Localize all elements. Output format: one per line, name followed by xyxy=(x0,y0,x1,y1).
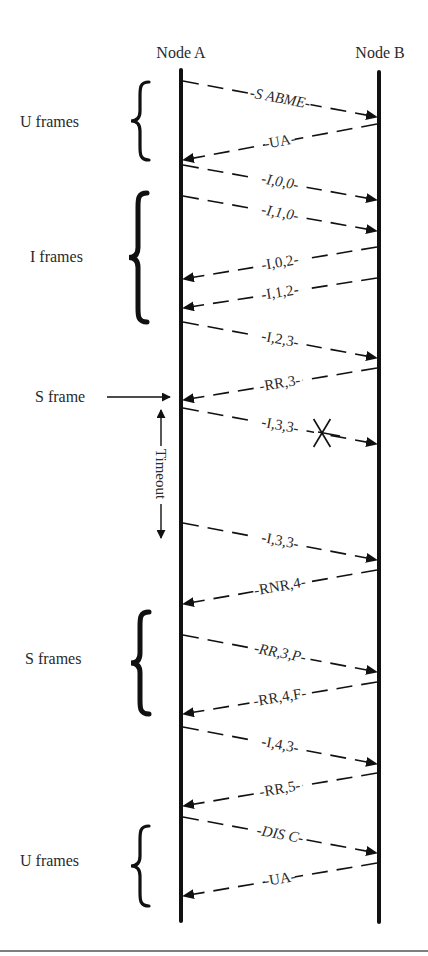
group-label: U frames xyxy=(20,113,79,130)
message-label: -DIS C- xyxy=(256,822,305,846)
message-label: -I,1,2- xyxy=(260,281,300,303)
hdlc-sequence-diagram: Node ANode B U framesI framesS framesU f… xyxy=(0,0,428,956)
message-i-3-3: -I,3,3- xyxy=(183,523,377,560)
message-ua: -UA- xyxy=(183,863,377,896)
curly-brace-icon xyxy=(131,826,149,906)
message-label: -I,4,3- xyxy=(260,733,300,756)
message-i-1-0: -I,1,0- xyxy=(183,196,377,231)
annotations: S frameTimeout xyxy=(35,388,340,538)
message-label: -RR,4,F- xyxy=(252,685,307,709)
message-rr-3-p: -RR,3,P- xyxy=(183,635,377,672)
message-i-0-0: -I,0,0- xyxy=(183,165,377,200)
messages: -S ABME--UA--I,0,0--I,1,0--I,0,2--I,1,2-… xyxy=(183,81,377,896)
s-frame-annotation: S frame xyxy=(35,388,170,405)
message-rr-3: -RR,3- xyxy=(183,368,377,400)
message-label: -I,3,3- xyxy=(260,414,300,437)
group-u-frames: U frames xyxy=(20,82,149,160)
frame-groups: U framesI framesS framesU frames xyxy=(20,82,149,906)
group-label: U frames xyxy=(20,852,79,869)
message-s-abme: -S ABME- xyxy=(183,81,377,117)
message-i-1-2: -I,1,2- xyxy=(183,278,377,308)
curly-brace-icon xyxy=(129,193,147,322)
message-i-0-2: -I,0,2- xyxy=(183,247,377,279)
message-label: -I,1,0- xyxy=(260,201,300,223)
message-label: -RR,3,P- xyxy=(253,640,308,666)
message-label: -UA- xyxy=(263,868,297,889)
node-label-a: Node A xyxy=(156,44,206,61)
group-u-frames: U frames xyxy=(20,826,149,906)
message-label: -I,2,3- xyxy=(260,328,300,351)
message-label: -I,0,2- xyxy=(260,251,300,273)
message-label: -UA- xyxy=(263,130,297,152)
message-label: -RR,3- xyxy=(258,372,301,395)
message-rr-4-f: -RR,4,F- xyxy=(183,682,377,714)
message-i-4-3: -I,4,3- xyxy=(183,727,377,764)
curly-brace-icon xyxy=(131,612,149,714)
message-label: -S ABME- xyxy=(249,85,312,112)
curly-brace-icon xyxy=(131,82,149,160)
message-label: -RR,5- xyxy=(258,777,301,800)
node-label-b: Node B xyxy=(355,44,404,61)
message-label: -I,0,0- xyxy=(260,170,300,192)
message-label: -RNR,4- xyxy=(253,574,307,599)
group-label: I frames xyxy=(30,248,83,265)
message-rnr-4: -RNR,4- xyxy=(183,570,377,604)
timeout-label: Timeout xyxy=(153,449,169,500)
group-i-frames: I frames xyxy=(30,193,147,322)
timeout-annotation: Timeout xyxy=(153,410,169,538)
message-i-3-3: -I,3,3- xyxy=(183,408,377,444)
group-s-frames: S frames xyxy=(25,612,149,714)
message-rr-5: -RR,5- xyxy=(183,773,377,806)
message-i-2-3: -I,2,3- xyxy=(183,322,377,358)
message-label: -I,3,3- xyxy=(260,529,300,552)
group-label: S frames xyxy=(25,650,81,667)
message-dis-c: -DIS C- xyxy=(183,817,377,853)
lost-frame-x-icon xyxy=(314,419,340,447)
s-frame-label: S frame xyxy=(35,388,85,405)
message-ua: -UA- xyxy=(183,124,377,160)
